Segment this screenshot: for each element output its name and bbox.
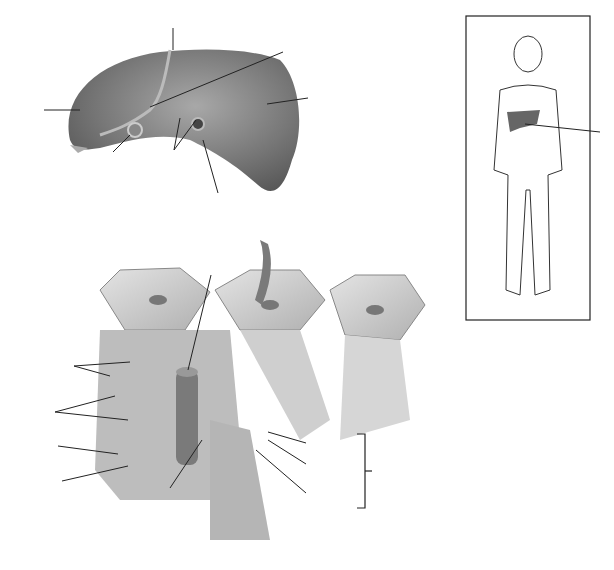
- liver-lobule-illustration: [95, 240, 425, 540]
- body-outline-inset: [466, 16, 600, 320]
- diagram-canvas: [0, 0, 614, 570]
- bracket: [357, 434, 372, 508]
- liver-illustration: [68, 50, 299, 191]
